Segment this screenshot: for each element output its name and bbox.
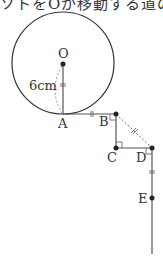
segment-bd-dashed: [116, 114, 152, 148]
point-b: [114, 112, 119, 117]
point-e: [150, 196, 155, 201]
point-o: [61, 62, 66, 67]
label-o: O: [58, 46, 69, 61]
geometry-diagram: O 6cm A B C D E: [0, 0, 163, 265]
label-a: A: [57, 116, 68, 131]
point-d: [150, 146, 155, 151]
label-b: B: [99, 114, 109, 129]
label-e: E: [138, 191, 148, 206]
label-c: C: [107, 150, 117, 165]
label-radius: 6cm: [29, 78, 57, 93]
label-d: D: [136, 150, 146, 165]
